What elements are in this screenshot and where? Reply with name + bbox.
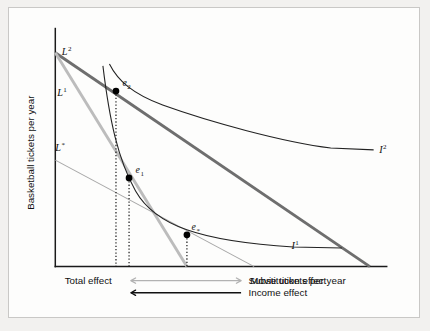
indifference-curve-I2-label-script: 2 — [383, 143, 387, 151]
figure-root: L2L1L* I1I2 e2e1e* Substitution effectIn… — [0, 0, 430, 331]
axes-group — [55, 29, 386, 267]
budget-line-L1 — [55, 53, 187, 267]
indifference-curve-I2-label-base: I2 — [378, 143, 387, 155]
figure-frame: L2L1L* I1I2 e2e1e* Substitution effectIn… — [8, 7, 420, 318]
equilibrium-label-script-e1: 1 — [140, 170, 144, 178]
x-axis-title: Movie tickets per year — [250, 275, 346, 286]
equilibrium-label-script-e2: 2 — [127, 83, 131, 91]
total-effect-label: Total effect — [65, 275, 112, 286]
y-axis-title: Basketball tickets per year — [25, 95, 36, 210]
indifference-curve-I2-label: I2 — [378, 143, 387, 155]
budget-line-L2-label-script: 2 — [68, 45, 72, 53]
budget-line-Lstar-label-script: * — [61, 141, 65, 149]
indifference-curve-I2 — [109, 64, 373, 150]
budget-lines-group: L2L1L* — [54, 45, 370, 267]
indifference-curve-diagram: L2L1L* I1I2 e2e1e* Substitution effectIn… — [9, 8, 419, 317]
equilibrium-label-script-estar: * — [196, 227, 200, 235]
effect-label-income: Income effect — [249, 287, 308, 298]
indifference-curves-group: I1I2 — [103, 64, 387, 251]
budget-line-L2-label-base: L2 — [61, 45, 72, 57]
equilibrium-label-e2: e2 — [123, 77, 132, 91]
indifference-curve-I1-label: I1 — [290, 239, 299, 251]
indifference-curve-I1-label-base: I1 — [290, 239, 299, 251]
budget-line-Lstar-label-base: L* — [54, 141, 65, 153]
equilibrium-point-estar — [184, 231, 191, 238]
budget-line-L1-label-script: 1 — [63, 86, 67, 94]
indifference-curve-I1 — [103, 66, 342, 248]
indifference-curve-I1-label-script: 1 — [295, 239, 299, 247]
budget-line-L1-label-base: L1 — [56, 86, 67, 98]
budget-line-L1-label: L1 — [56, 86, 67, 98]
budget-line-L2 — [55, 53, 370, 267]
equilibrium-point-e1 — [126, 175, 133, 182]
equilibrium-label-estar: e* — [192, 221, 201, 235]
budget-line-L2-label: L2 — [61, 45, 72, 57]
budget-line-Lstar-label: L* — [54, 141, 65, 153]
equilibrium-point-e2 — [113, 88, 120, 95]
equilibrium-label-e1: e1 — [136, 164, 145, 178]
